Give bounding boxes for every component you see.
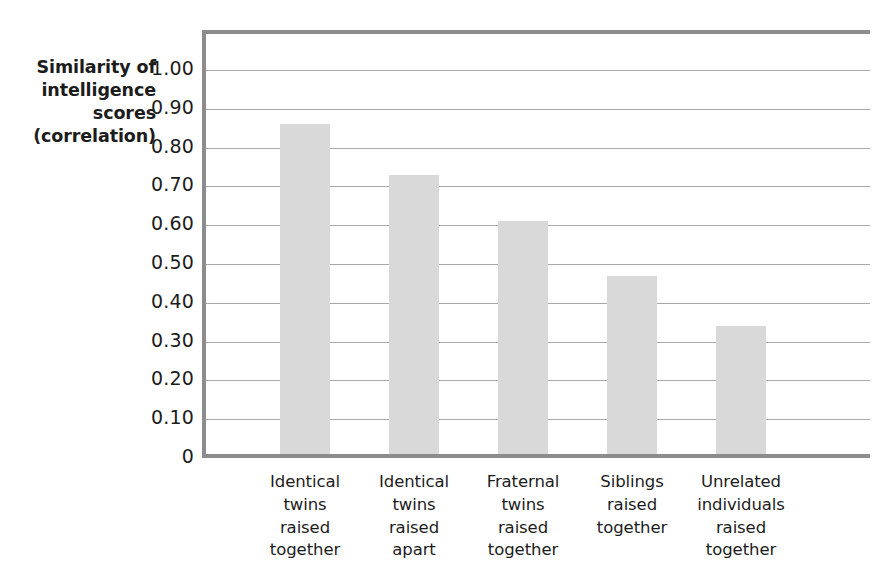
x-axis-category-label-line: Identical bbox=[354, 471, 474, 494]
bar[interactable] bbox=[716, 326, 766, 454]
x-axis-category-label-line: Siblings bbox=[572, 471, 692, 494]
y-axis-tick-label: 0.70 bbox=[110, 173, 194, 195]
x-axis-category-label: Siblingsraisedtogether bbox=[572, 471, 692, 539]
bar[interactable] bbox=[607, 276, 657, 454]
y-axis-tick-label: 0 bbox=[110, 445, 194, 467]
plot-border-top bbox=[202, 30, 870, 34]
y-axis-tick-label: 0.40 bbox=[110, 290, 194, 312]
x-axis-category-label-line: raised bbox=[572, 494, 692, 517]
x-axis-category-label-line: twins bbox=[354, 494, 474, 517]
y-axis-tick-label: 0.30 bbox=[110, 329, 194, 351]
bar-chart-figure: Similarity of intelligence scores (corre… bbox=[0, 0, 885, 576]
bar[interactable] bbox=[389, 175, 439, 454]
y-axis-tick-labels: 1.000.900.800.700.600.500.400.300.200.10… bbox=[100, 0, 194, 576]
x-axis-category-label: Identicaltwinsraisedtogether bbox=[245, 471, 365, 562]
x-axis-category-label-line: Fraternal bbox=[463, 471, 583, 494]
x-axis-category-label-line: together bbox=[681, 539, 801, 562]
x-axis-category-label: Unrelatedindividualsraisedtogether bbox=[681, 471, 801, 562]
x-axis-category-label-line: raised bbox=[245, 517, 365, 540]
x-axis-line bbox=[202, 454, 870, 458]
x-axis-category-label-line: twins bbox=[245, 494, 365, 517]
x-axis-category-label-line: Unrelated bbox=[681, 471, 801, 494]
y-axis-tick-label: 1.00 bbox=[110, 57, 194, 79]
y-axis-tick-label: 0.80 bbox=[110, 135, 194, 157]
y-axis-tick-label: 0.20 bbox=[110, 367, 194, 389]
y-axis-tick-label: 0.60 bbox=[110, 212, 194, 234]
x-axis-category-label-line: Identical bbox=[245, 471, 365, 494]
gridline bbox=[206, 70, 870, 71]
x-axis-category-label-line: twins bbox=[463, 494, 583, 517]
x-axis-category-label-line: together bbox=[245, 539, 365, 562]
y-axis-tick-label: 0.90 bbox=[110, 96, 194, 118]
x-axis-category-label-line: raised bbox=[463, 517, 583, 540]
bar[interactable] bbox=[498, 221, 548, 454]
plot-area bbox=[202, 30, 870, 458]
x-axis-category-label-line: individuals bbox=[681, 494, 801, 517]
x-axis-category-label: Identicaltwinsraisedapart bbox=[354, 471, 474, 562]
gridline bbox=[206, 109, 870, 110]
x-axis-category-label-line: together bbox=[463, 539, 583, 562]
bar[interactable] bbox=[280, 124, 330, 454]
x-axis-category-label-line: raised bbox=[681, 517, 801, 540]
x-axis-category-label-line: together bbox=[572, 517, 692, 540]
y-axis-tick-label: 0.50 bbox=[110, 251, 194, 273]
x-axis-category-label-line: raised bbox=[354, 517, 474, 540]
x-axis-category-label-line: apart bbox=[354, 539, 474, 562]
y-axis-tick-label: 0.10 bbox=[110, 406, 194, 428]
plot-border-left bbox=[202, 30, 206, 458]
x-axis-category-label: Fraternaltwinsraisedtogether bbox=[463, 471, 583, 562]
